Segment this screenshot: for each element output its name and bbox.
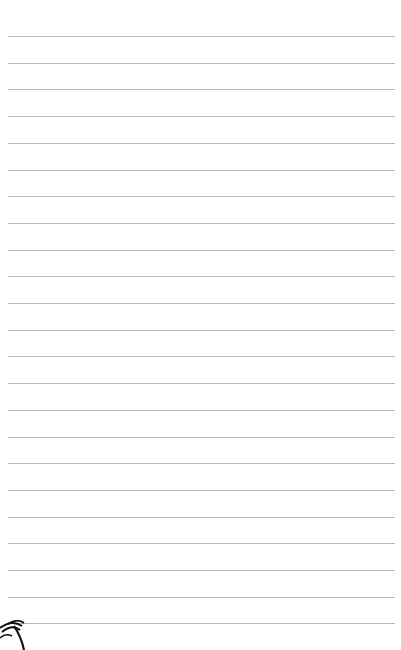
notepaper-page bbox=[0, 0, 401, 650]
ruled-line bbox=[8, 196, 395, 197]
ruled-line bbox=[8, 116, 395, 117]
ruled-line bbox=[8, 170, 395, 171]
ruled-line bbox=[8, 463, 395, 464]
ruled-line bbox=[8, 276, 395, 277]
ruled-line bbox=[8, 63, 395, 64]
ruled-line bbox=[8, 223, 395, 224]
ruled-line bbox=[8, 89, 395, 90]
ruled-line bbox=[8, 356, 395, 357]
ruled-line bbox=[8, 36, 395, 37]
ruled-line bbox=[8, 570, 395, 571]
ruled-line bbox=[8, 543, 395, 544]
ruled-line bbox=[8, 383, 395, 384]
ruled-line bbox=[8, 517, 395, 518]
ruled-line bbox=[8, 143, 395, 144]
ruled-line bbox=[8, 303, 395, 304]
ruled-line bbox=[8, 623, 395, 624]
ruled-line bbox=[8, 410, 395, 411]
ruled-line bbox=[8, 437, 395, 438]
ruled-line bbox=[8, 250, 395, 251]
ruled-line bbox=[8, 597, 395, 598]
palm-tree-icon bbox=[0, 620, 40, 650]
ruled-line bbox=[8, 330, 395, 331]
ruled-line bbox=[8, 490, 395, 491]
